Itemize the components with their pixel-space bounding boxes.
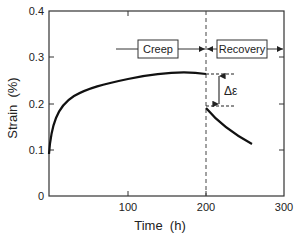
creep-recovery-chart: 0 0.1 0.2 0.3 0.4 100 200 300 Time (h) S… — [0, 0, 300, 237]
y-tick-0: 0 — [38, 190, 44, 202]
x-axis — [128, 11, 206, 196]
y-axis — [49, 57, 284, 150]
delta-strain-label: Δε — [224, 84, 238, 98]
creep-curve — [49, 72, 206, 154]
x-tick-300: 300 — [275, 201, 293, 213]
creep-label: Creep — [143, 43, 173, 55]
y-axis-title: Strain (%) — [5, 77, 20, 138]
y-tick-labels: 0 0.1 0.2 0.3 0.4 — [29, 5, 44, 202]
x-axis-title: Time (h) — [134, 218, 186, 233]
y-tick-0.4: 0.4 — [29, 5, 44, 17]
recovery-curve — [206, 108, 252, 144]
recovery-phase-indicator: Recovery — [207, 40, 283, 58]
y-tick-0.1: 0.1 — [29, 144, 44, 156]
y-tick-0.3: 0.3 — [29, 51, 44, 63]
x-tick-100: 100 — [119, 201, 137, 213]
x-tick-200: 200 — [197, 201, 215, 213]
y-tick-0.2: 0.2 — [29, 98, 44, 110]
x-tick-labels: 100 200 300 — [119, 201, 293, 213]
plot-frame — [49, 11, 284, 196]
recovery-label: Recovery — [219, 43, 266, 55]
creep-phase-indicator: Creep — [116, 40, 205, 58]
